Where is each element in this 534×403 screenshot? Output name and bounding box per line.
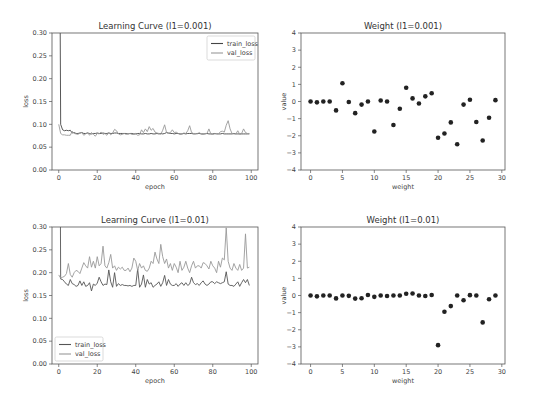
x-tick-label: 0 <box>57 174 61 182</box>
scatter-point <box>372 295 377 300</box>
x-tick-label: 100 <box>245 174 257 182</box>
chart-title: Learning Curve (l1=0.001) <box>98 21 211 31</box>
legend: train_lossval_loss <box>207 36 259 60</box>
scatter-point <box>449 304 454 309</box>
y-tick-label: 0.20 <box>33 269 47 277</box>
scatter-point <box>334 108 339 113</box>
scatter-point <box>315 100 320 105</box>
legend-label-train-loss: train_loss <box>227 40 259 48</box>
scatter-point <box>474 120 479 125</box>
subplot-2: Weight (l1=0.001)051015202530−4−3−2−1012… <box>280 21 506 191</box>
y-axis-label: loss <box>22 95 30 108</box>
subplot-1: Learning Curve (l1=0.001)0204060801000.0… <box>22 0 259 191</box>
scatter-point <box>417 101 422 106</box>
y-tick-label: 0.15 <box>33 98 47 106</box>
scatter-point <box>327 293 332 298</box>
y-tick-label: 0.00 <box>33 166 47 174</box>
scatter-point <box>423 294 428 299</box>
y-tick-label: 0.10 <box>33 121 47 129</box>
x-axis-label: weight <box>392 377 414 385</box>
scatter-point <box>468 293 473 298</box>
scatter-point <box>410 291 415 296</box>
y-tick-label: 0.05 <box>33 337 47 345</box>
scatter-point <box>442 131 447 136</box>
y-tick-label: 4 <box>292 223 296 231</box>
scatter-point <box>493 98 498 103</box>
y-tick-label: 1 <box>292 81 296 89</box>
y-tick-label: 1 <box>292 275 296 283</box>
x-axis-label: epoch <box>145 183 165 191</box>
y-tick-label: 0.25 <box>33 52 47 60</box>
chart-title: Weight (l1=0.001) <box>364 21 442 31</box>
scatter-point <box>404 86 409 91</box>
scatter-point <box>461 102 466 107</box>
x-tick-label: 5 <box>340 174 344 182</box>
x-tick-label: 30 <box>498 174 506 182</box>
plot-area <box>308 81 497 147</box>
legend-label-train-loss: train_loss <box>75 341 107 349</box>
scatter-point <box>436 136 441 141</box>
scatter-point <box>308 99 313 104</box>
scatter-point <box>353 111 358 116</box>
chart-title: Learning Curve (l1=0.01) <box>101 215 209 225</box>
x-tick-label: 100 <box>245 368 257 376</box>
scatter-point <box>480 138 485 143</box>
legend: train_lossval_loss <box>55 337 107 361</box>
y-tick-label: 0.20 <box>33 75 47 83</box>
y-tick-label: 0.05 <box>33 143 47 151</box>
scatter-point <box>429 293 434 298</box>
scatter-point <box>480 320 485 325</box>
subplot-4: Weight (l1=0.01)051015202530−4−3−2−10123… <box>280 215 506 385</box>
y-tick-label: 0 <box>292 292 296 300</box>
y-tick-label: 0.30 <box>33 29 47 37</box>
scatter-point <box>366 99 371 104</box>
scatter-point <box>410 96 415 101</box>
scatter-point <box>340 81 345 86</box>
legend-label-val-loss: val_loss <box>75 350 101 358</box>
scatter-point <box>385 99 390 104</box>
x-tick-label: 10 <box>370 368 378 376</box>
scatter-point <box>378 293 383 298</box>
scatter-point <box>423 94 428 99</box>
scatter-point <box>391 123 396 128</box>
x-tick-label: 25 <box>466 368 474 376</box>
scatter-point <box>327 99 332 104</box>
y-tick-label: 0.00 <box>33 360 47 368</box>
scatter-point <box>385 294 390 299</box>
scatter-point <box>359 296 364 301</box>
series-line-val-loss <box>59 228 250 278</box>
scatter-point <box>321 99 326 104</box>
y-tick-label: −4 <box>286 360 296 368</box>
scatter-point <box>391 293 396 298</box>
y-tick-label: 3 <box>292 46 296 54</box>
y-tick-label: 0 <box>292 98 296 106</box>
scatter-point <box>442 309 447 314</box>
y-axis-label: value <box>280 287 288 305</box>
y-tick-label: 2 <box>292 258 296 266</box>
figure: Learning Curve (l1=0.001)0204060801000.0… <box>0 0 534 403</box>
y-tick-label: −2 <box>286 326 296 334</box>
scatter-point <box>378 98 383 103</box>
scatter-point <box>398 106 403 111</box>
x-tick-label: 5 <box>340 368 344 376</box>
x-axis-label: epoch <box>145 377 165 385</box>
x-tick-label: 20 <box>434 368 442 376</box>
y-tick-label: 4 <box>292 29 296 37</box>
x-tick-label: 80 <box>209 174 217 182</box>
chart-title: Weight (l1=0.01) <box>367 215 440 225</box>
scatter-point <box>347 294 352 299</box>
scatter-point <box>487 297 492 302</box>
y-tick-label: 2 <box>292 64 296 72</box>
scatter-point <box>308 293 313 298</box>
x-tick-label: 20 <box>434 174 442 182</box>
scatter-point <box>359 102 364 107</box>
scatter-point <box>321 293 326 298</box>
x-tick-label: 30 <box>498 368 506 376</box>
y-axis-label: value <box>280 93 288 111</box>
y-tick-label: −3 <box>286 343 296 351</box>
legend-label-val-loss: val_loss <box>227 49 253 57</box>
x-tick-label: 20 <box>93 174 101 182</box>
y-tick-label: −1 <box>286 309 296 317</box>
scatter-point <box>455 293 460 298</box>
y-tick-label: −2 <box>286 132 296 140</box>
